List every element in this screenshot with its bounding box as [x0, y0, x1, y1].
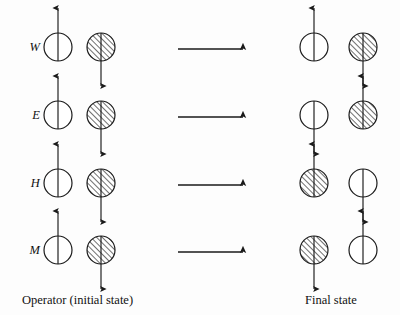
spin-final-h-0 [300, 144, 328, 197]
spin-initial-w-1 [87, 33, 115, 86]
spin-final-m-1 [349, 211, 377, 264]
row-label-w: W [14, 40, 40, 55]
spin-final-w-0 [300, 8, 328, 61]
spin-initial-w-0 [44, 8, 72, 61]
spin-initial-e-1 [87, 101, 115, 154]
spin-initial-h-1 [87, 169, 115, 222]
row-label-e: E [14, 108, 40, 123]
caption-final-state: Final state [305, 293, 357, 308]
spin-final-e-1 [349, 76, 377, 129]
row-label-m: M [14, 243, 40, 258]
spin-initial-m-1 [87, 236, 115, 289]
spin-final-m-0 [300, 236, 328, 289]
spin-initial-h-0 [44, 144, 72, 197]
caption-operator-initial-state: Operator (initial state) [22, 293, 133, 308]
diagram-canvas [0, 0, 400, 315]
spin-initial-m-0 [44, 211, 72, 264]
spin-initial-e-0 [44, 76, 72, 129]
row-label-h: H [14, 176, 40, 191]
spin-operator-diagram: W E H M Operator (initial state) Final s… [0, 0, 400, 315]
